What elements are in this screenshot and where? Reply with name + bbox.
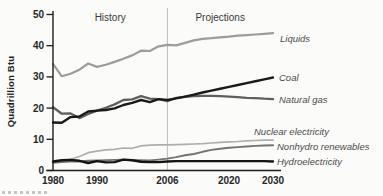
- y-tick-label: 20: [33, 103, 45, 114]
- x-tick-label: 1990: [86, 175, 109, 186]
- x-tick-label: 2006: [156, 175, 179, 186]
- header-history: History: [95, 12, 126, 23]
- x-tick-label: 1980: [42, 175, 65, 186]
- x-tick-label: 2030: [262, 175, 285, 186]
- header-projections: Projections: [195, 12, 244, 23]
- y-tick-label: 30: [33, 71, 45, 82]
- y-tick-label: 10: [33, 134, 45, 145]
- x-tick-label: 2020: [218, 175, 241, 186]
- series-label-natural-gas: Natural gas: [279, 94, 328, 105]
- series-label-hydroelectricity: Hydroelectricity: [277, 156, 343, 167]
- y-tick-label: 40: [33, 40, 45, 51]
- series-label-liquids: Liquids: [280, 33, 310, 44]
- series-line-liquids: [53, 33, 273, 76]
- cropped-caption-fragment: [2, 191, 48, 194]
- y-axis-title: Quadrillion Btu: [5, 22, 16, 162]
- series-label-nuclear-electricity: Nuclear electricity: [254, 126, 330, 137]
- series-label-nonhydro-renewables: Nonhydro renewables: [277, 141, 370, 152]
- energy-consumption-by-fuel-chart: HistoryProjections0102030405019801990200…: [0, 0, 383, 196]
- series-label-coal: Coal: [279, 72, 299, 83]
- chart-canvas: HistoryProjections0102030405019801990200…: [0, 0, 383, 196]
- y-tick-label: 50: [33, 9, 45, 20]
